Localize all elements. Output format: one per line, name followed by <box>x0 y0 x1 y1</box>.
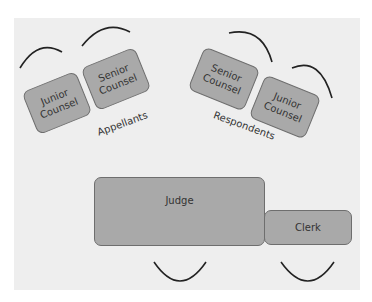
judge-bench: Judge <box>94 177 265 246</box>
chair-arc-left-junior <box>20 48 62 68</box>
clerk-desk: Clerk <box>264 210 352 245</box>
chair-arc-clerk <box>281 262 334 281</box>
chair-arc-left-senior <box>82 27 130 46</box>
chair-arc-judge <box>154 262 206 281</box>
chair-arc-right-senior <box>229 32 272 62</box>
chair-arcs <box>0 0 372 302</box>
